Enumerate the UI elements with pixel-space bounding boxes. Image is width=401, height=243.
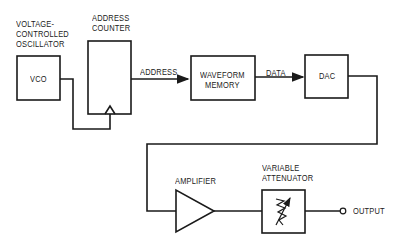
output-label: OUTPUT <box>353 206 385 216</box>
vco-label: VCO <box>30 74 47 84</box>
attenuator-caption: VARIABLE ATTENUATOR <box>262 163 313 183</box>
vco-caption: VOLTAGE- CONTROLLED OSCILLATOR <box>16 19 69 49</box>
address-counter-caption: ADDRESS COUNTER <box>92 13 130 33</box>
data-signal-label: DATA <box>266 68 286 78</box>
waveform-memory-label: WAVEFORM MEMORY <box>200 70 245 90</box>
address-signal-label: ADDRESS <box>140 67 177 77</box>
dac-label: DAC <box>319 71 335 81</box>
amplifier-icon <box>176 190 214 232</box>
clock-input-icon <box>105 106 115 114</box>
output-terminal-icon <box>340 208 346 214</box>
address-counter-block <box>88 41 131 114</box>
amplifier-caption: AMPLIFIER <box>175 176 216 186</box>
vco-to-counter-wire <box>60 79 110 129</box>
